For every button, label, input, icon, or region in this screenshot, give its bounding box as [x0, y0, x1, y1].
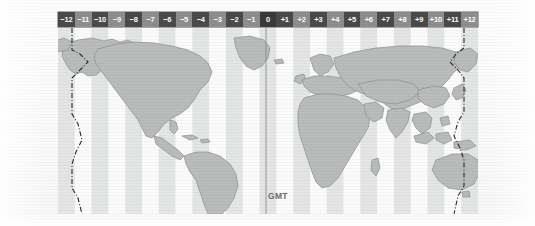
utc-offset-cell[interactable]: −12	[58, 12, 75, 27]
world-map-graphic	[58, 28, 478, 214]
utc-offset-cell[interactable]: +8	[394, 12, 411, 27]
hispaniola-island	[200, 139, 210, 143]
utc-offset-cell[interactable]: −10	[92, 12, 109, 27]
time-zone-figure: −12−11−10−9−8−7−6−5−4−3−2−10+1+2+3+4+5+6…	[0, 0, 535, 226]
utc-offset-cell[interactable]: +11	[444, 12, 461, 27]
utc-offset-cell[interactable]: −6	[159, 12, 176, 27]
utc-offset-cell[interactable]: −9	[108, 12, 125, 27]
utc-offset-scale: −12−11−10−9−8−7−6−5−4−3−2−10+1+2+3+4+5+6…	[58, 12, 478, 27]
utc-offset-cell[interactable]: +5	[344, 12, 361, 27]
world-map: GMT	[58, 28, 478, 214]
utc-offset-cell[interactable]: −3	[209, 12, 226, 27]
time-zone-band	[276, 28, 293, 214]
utc-offset-cell[interactable]: +6	[360, 12, 377, 27]
utc-offset-cell[interactable]: −4	[192, 12, 209, 27]
iceland-landmass	[274, 59, 284, 64]
utc-offset-cell[interactable]: +7	[377, 12, 394, 27]
philippines-islands	[440, 116, 450, 126]
utc-offset-cell[interactable]: +12	[461, 12, 478, 27]
utc-offset-cell[interactable]: −2	[226, 12, 243, 27]
utc-offset-cell[interactable]: +1	[276, 12, 293, 27]
utc-offset-cell[interactable]: +3	[310, 12, 327, 27]
utc-offset-cell[interactable]: 0	[260, 12, 277, 27]
utc-offset-cell[interactable]: +4	[327, 12, 344, 27]
utc-offset-cell[interactable]: −7	[142, 12, 159, 27]
utc-offset-cell[interactable]: −5	[176, 12, 193, 27]
gmt-label: GMT	[268, 192, 288, 201]
utc-offset-cell[interactable]: +10	[428, 12, 445, 27]
utc-offset-cell[interactable]: −8	[125, 12, 142, 27]
utc-offset-cell[interactable]: +2	[293, 12, 310, 27]
utc-offset-cell[interactable]: +9	[411, 12, 428, 27]
utc-offset-cell[interactable]: −1	[243, 12, 260, 27]
utc-offset-cell[interactable]: −11	[75, 12, 92, 27]
tasmania-island	[462, 191, 470, 197]
